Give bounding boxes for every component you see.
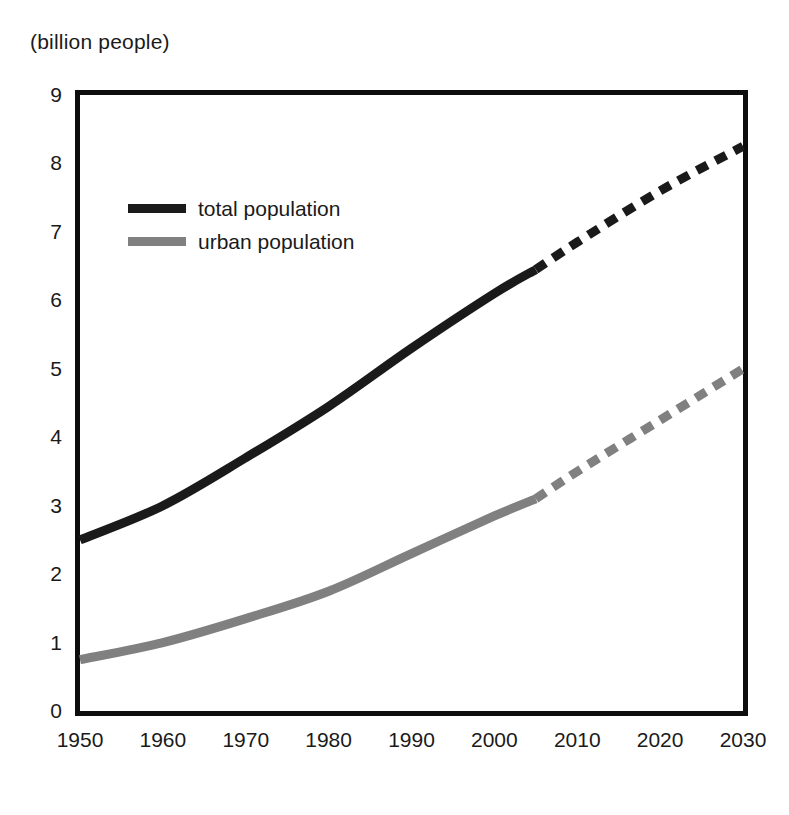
- plot-frame: [78, 93, 746, 714]
- plot-area: [0, 0, 789, 815]
- series-projection-urban-population: [536, 369, 743, 499]
- legend-swatch-icon: [128, 204, 186, 213]
- legend-item[interactable]: total population: [128, 192, 354, 225]
- legend-swatch-icon: [128, 237, 186, 246]
- chart-legend: total populationurban population: [128, 192, 354, 258]
- legend-item[interactable]: urban population: [128, 225, 354, 258]
- series-line-total-population: [80, 270, 536, 540]
- series-projection-total-population: [536, 146, 743, 269]
- legend-item-label: total population: [198, 197, 340, 221]
- series-line-urban-population: [80, 499, 536, 660]
- population-line-chart: (billion people) 0123456789 195019601970…: [0, 0, 789, 815]
- legend-item-label: urban population: [198, 230, 354, 254]
